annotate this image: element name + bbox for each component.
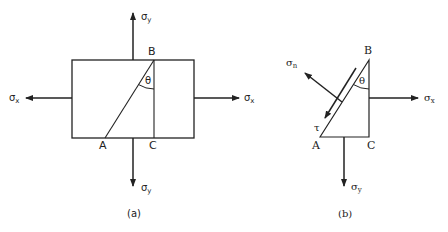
label-b-b: B xyxy=(364,44,372,57)
label-sigma-y-top: σy xyxy=(141,11,152,24)
label-theta-b: θ xyxy=(359,75,365,86)
caption-a: (a) xyxy=(127,208,141,219)
arrow-sigma-n xyxy=(305,73,342,102)
label-c-b: C xyxy=(367,139,375,152)
label-sigma-y-bottom: σy xyxy=(141,182,152,195)
panel-b: B A C θ σn τ σx σy (b) xyxy=(286,44,435,219)
inclined-plane-ab xyxy=(105,60,154,138)
label-tau: τ xyxy=(314,122,320,133)
label-sigma-y-bottom-b: σy xyxy=(351,181,362,194)
label-theta: θ xyxy=(145,75,151,86)
stress-element-rect xyxy=(72,60,194,138)
label-sigma-x-right-b: σx xyxy=(424,92,435,105)
caption-b: (b) xyxy=(338,208,352,219)
label-sigma-x-left: σx xyxy=(9,92,20,105)
label-a-b: A xyxy=(311,139,321,152)
label-c: C xyxy=(149,139,157,152)
label-a: A xyxy=(99,139,107,152)
label-b: B xyxy=(148,45,156,58)
stress-diagram: B A C θ σy σy σx σx (a) B A C θ σn τ σx … xyxy=(0,0,448,232)
panel-a: B A C θ σy σy σx σx (a) xyxy=(9,11,255,219)
label-sigma-n: σn xyxy=(286,57,298,70)
wedge-triangle-abc xyxy=(320,60,369,137)
label-sigma-x-right: σx xyxy=(244,92,255,105)
